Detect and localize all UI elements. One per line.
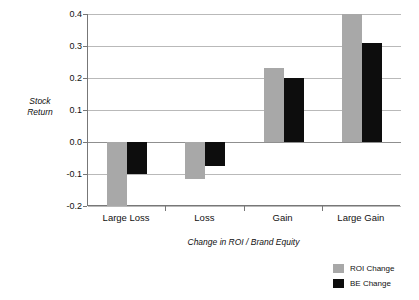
- chart-legend: ROI Change BE Change: [333, 262, 417, 292]
- bar-chart-figure: Stock Return 0.40.30.20.10.0-0.1-0.2 Lar…: [0, 0, 419, 300]
- legend-item-be-change: BE Change: [333, 277, 417, 290]
- bar-be-change-large-gain: [362, 43, 382, 142]
- x-axis-label-large-gain: Large Gain: [322, 212, 400, 223]
- y-axis-tick-label: -0.1: [55, 170, 82, 179]
- x-axis-tick-mark: [165, 206, 166, 211]
- y-axis-tick-mark: [83, 206, 87, 207]
- y-axis-tick-label: 0.1: [55, 106, 82, 115]
- bar-be-change-loss: [205, 142, 225, 166]
- y-axis-tick-label: 0.2: [55, 74, 82, 83]
- y-axis-tick-label: 0.4: [55, 10, 82, 19]
- y-axis-tick-label: -0.2: [55, 202, 82, 211]
- bar-be-change-gain: [284, 78, 304, 142]
- x-axis-label-loss: Loss: [165, 212, 243, 223]
- bar-roi-change-loss: [185, 142, 205, 179]
- gridline: [88, 206, 401, 207]
- x-axis-tick-mark: [322, 206, 323, 211]
- x-axis-tick-mark: [244, 206, 245, 211]
- y-axis-tick-label: 0.0: [55, 138, 82, 147]
- legend-label-roi-change: ROI Change: [350, 264, 394, 273]
- legend-swatch-roi-change: [333, 264, 344, 273]
- legend-swatch-be-change: [333, 279, 344, 288]
- legend-item-roi-change: ROI Change: [333, 262, 417, 275]
- bar-be-change-large-loss: [127, 142, 147, 174]
- y-axis-title-line-1: Stock: [14, 96, 66, 107]
- bar-roi-change-large-loss: [107, 142, 127, 206]
- plot-area: [87, 14, 400, 206]
- x-axis-label-large-loss: Large Loss: [87, 212, 165, 223]
- x-axis-label-gain: Gain: [244, 212, 322, 223]
- y-axis-tick-label: 0.3: [55, 42, 82, 51]
- x-axis-title: Change in ROI / Brand Equity: [87, 237, 400, 247]
- bar-roi-change-gain: [264, 68, 284, 142]
- gridline: [88, 174, 401, 175]
- bar-roi-change-large-gain: [342, 14, 362, 142]
- legend-label-be-change: BE Change: [350, 279, 391, 288]
